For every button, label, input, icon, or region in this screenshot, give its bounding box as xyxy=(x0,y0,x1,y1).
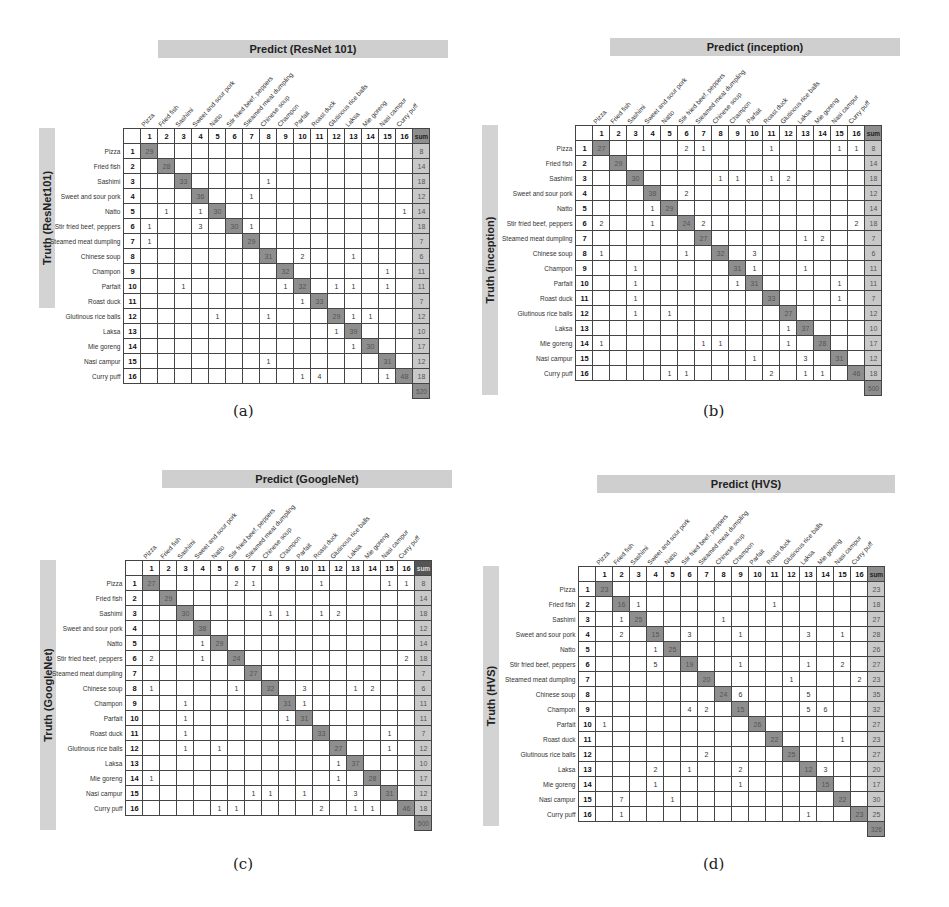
matrix-cell xyxy=(596,597,613,612)
matrix-cell xyxy=(228,726,245,741)
table-row: Fried fish22914 xyxy=(502,156,882,171)
matrix-cell xyxy=(158,369,175,384)
matrix-cell xyxy=(143,756,160,771)
matrix-cell xyxy=(610,216,627,231)
table-row: Sweet and sour pork436112 xyxy=(50,189,430,204)
diagonal-cell: 46 xyxy=(848,366,865,381)
matrix-cell xyxy=(814,216,831,231)
row-index: 2 xyxy=(579,597,596,612)
matrix-cell xyxy=(596,672,613,687)
matrix-cell xyxy=(279,651,296,666)
matrix-cell xyxy=(746,141,763,156)
row-index: 1 xyxy=(124,144,141,159)
matrix-cell: 1 xyxy=(313,606,330,621)
row-label: Pizza xyxy=(52,576,126,591)
matrix-cell xyxy=(763,351,780,366)
matrix-cell xyxy=(160,576,177,591)
matrix-cell xyxy=(209,189,226,204)
matrix-cell xyxy=(211,756,228,771)
matrix-cell: 2 xyxy=(848,216,865,231)
matrix-cell xyxy=(311,249,328,264)
spacer xyxy=(379,384,396,399)
matrix-cell xyxy=(177,636,194,651)
matrix-cell xyxy=(160,711,177,726)
matrix-cell xyxy=(347,651,364,666)
matrix-cell xyxy=(277,354,294,369)
matrix-cell: 1 xyxy=(345,339,362,354)
col-index: 9 xyxy=(729,126,746,141)
matrix-cell xyxy=(158,234,175,249)
column-label: Parfait xyxy=(295,541,313,560)
matrix-cell xyxy=(831,246,848,261)
matrix-cell xyxy=(661,321,678,336)
diagonal-cell: 30 xyxy=(209,204,226,219)
sum-header: sum xyxy=(413,129,430,144)
matrix-cell xyxy=(277,189,294,204)
row-sum: 18 xyxy=(413,369,430,384)
matrix-cell xyxy=(698,792,715,807)
matrix-cell xyxy=(783,687,800,702)
spacer xyxy=(681,822,698,837)
matrix-cell xyxy=(780,231,797,246)
matrix-cell xyxy=(831,306,848,321)
matrix-cell xyxy=(678,336,695,351)
row-sum: 8 xyxy=(413,144,430,159)
matrix-cell xyxy=(243,174,260,189)
row-index: 1 xyxy=(579,582,596,597)
spacer xyxy=(661,381,678,396)
matrix-cell xyxy=(851,657,868,672)
caption-a: (a) xyxy=(233,402,254,420)
matrix-cell xyxy=(596,777,613,792)
matrix-cell xyxy=(729,291,746,306)
matrix-cell: 3 xyxy=(800,627,817,642)
caption-c: (c) xyxy=(233,855,253,873)
matrix-cell xyxy=(328,249,345,264)
matrix-cell xyxy=(831,216,848,231)
matrix-cell xyxy=(175,354,192,369)
matrix-cell xyxy=(695,306,712,321)
row-index: 16 xyxy=(126,801,143,816)
matrix-cell xyxy=(260,234,277,249)
matrix-cell xyxy=(379,324,396,339)
diagonal-cell: 27 xyxy=(593,141,610,156)
matrix-cell xyxy=(396,219,413,234)
matrix-cell: 2 xyxy=(732,762,749,777)
matrix-cell: 1 xyxy=(695,141,712,156)
matrix-cell xyxy=(226,354,243,369)
row-sum: 11 xyxy=(865,276,882,291)
row-sum: 7 xyxy=(865,291,882,306)
matrix-cell xyxy=(630,717,647,732)
matrix-cell xyxy=(681,612,698,627)
column-label: Natto xyxy=(660,109,676,125)
table-row: Chinese soup811323126 xyxy=(52,681,432,696)
row-sum: 14 xyxy=(865,201,882,216)
matrix-cell xyxy=(211,591,228,606)
matrix-cell: 2 xyxy=(313,801,330,816)
matrix-cell xyxy=(279,681,296,696)
row-label: Fried fish xyxy=(505,597,579,612)
matrix-cell xyxy=(596,702,613,717)
matrix-cell: 1 xyxy=(729,171,746,186)
matrix-cell: 1 xyxy=(746,261,763,276)
row-label: Champon xyxy=(52,696,126,711)
matrix-cell xyxy=(715,627,732,642)
table-row: Steamed meat dumpling71297 xyxy=(50,234,430,249)
matrix-cell xyxy=(262,696,279,711)
matrix-cell: 1 xyxy=(177,741,194,756)
matrix-cell xyxy=(797,171,814,186)
spacer xyxy=(596,822,613,837)
col-index: 12 xyxy=(783,567,800,582)
row-sum: 17 xyxy=(868,777,885,792)
matrix-cell xyxy=(158,249,175,264)
matrix-cell xyxy=(177,756,194,771)
matrix-cell xyxy=(296,621,313,636)
matrix-cell xyxy=(797,306,814,321)
matrix-cell xyxy=(226,324,243,339)
col-index: 12 xyxy=(780,126,797,141)
matrix-cell xyxy=(396,144,413,159)
matrix-cell: 1 xyxy=(260,354,277,369)
matrix-cell xyxy=(848,291,865,306)
matrix-cell xyxy=(381,591,398,606)
matrix-cell xyxy=(379,294,396,309)
matrix-cell xyxy=(364,576,381,591)
